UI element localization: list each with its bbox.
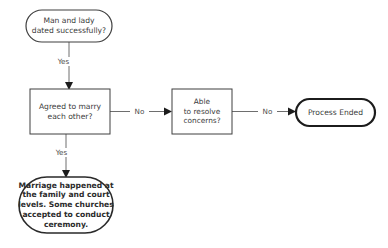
flowchart-canvas: [0, 0, 388, 248]
edge-agreed-to-resolve: [110, 108, 172, 116]
edge-agreed-to-marriage-happened: [62, 134, 70, 178]
node-agreed-shape: [30, 89, 110, 134]
edge-resolve-to-process-ended: [232, 108, 296, 116]
node-start-shape: [26, 10, 112, 42]
node-resolve-shape: [172, 89, 232, 134]
edge-start-to-agreed: [65, 42, 73, 90]
flowchart-diagram: Man and lady dated successfully? Agreed …: [0, 0, 388, 248]
node-marriage-happened-shape: [19, 177, 113, 233]
node-process-ended-shape: [296, 99, 375, 126]
